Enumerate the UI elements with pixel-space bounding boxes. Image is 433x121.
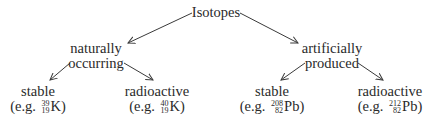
root-label: Isotopes <box>192 5 240 20</box>
arrow-natural-to-stable <box>50 63 70 80</box>
atomic-number: 19 <box>161 107 169 114</box>
node-natural-stable: stable (e.g. 3919K) <box>10 84 66 115</box>
isotope-example: (e.g. 21282Pb) <box>358 99 423 115</box>
isotope-example: (e.g. 4019K) <box>125 99 189 115</box>
element-symbol: K <box>170 98 180 114</box>
nuclide-numbers: 4019 <box>161 100 169 114</box>
node-artificial-radioactive: radioactive (e.g. 21282Pb) <box>358 84 423 115</box>
element-symbol: K <box>51 98 61 114</box>
node-label: radioactive <box>125 84 189 99</box>
nuclide-numbers: 20882 <box>271 100 283 114</box>
nuclide-numbers: 3919 <box>42 100 50 114</box>
atomic-number: 82 <box>389 107 401 114</box>
atomic-number: 19 <box>42 107 50 114</box>
atomic-number: 82 <box>271 107 283 114</box>
isotope-example: (e.g. 3919K) <box>10 99 66 115</box>
node-artificially-produced: artificially produced <box>302 41 362 71</box>
node-label: stable <box>240 84 305 99</box>
nuclide-numbers: 21282 <box>389 100 401 114</box>
node-naturally-occurring: naturally occurring <box>68 41 124 71</box>
isotope-classification-diagram: Isotopes naturally occurring artificiall… <box>0 0 433 121</box>
node-label: radioactive <box>358 84 423 99</box>
arrow-isotopes-to-natural <box>128 13 192 43</box>
node-natural-radioactive: radioactive (e.g. 4019K) <box>125 84 189 115</box>
node-label: stable <box>10 84 66 99</box>
node-label-line2: occurring <box>68 56 124 71</box>
isotope-example: (e.g. 20882Pb) <box>240 99 305 115</box>
arrow-natural-to-radioactive <box>124 63 153 80</box>
element-symbol: Pb <box>402 98 417 114</box>
root-node-isotopes: Isotopes <box>192 5 240 20</box>
node-label-line2: produced <box>302 56 362 71</box>
node-artificial-stable: stable (e.g. 20882Pb) <box>240 84 305 115</box>
element-symbol: Pb <box>284 98 299 114</box>
node-label-line1: artificially <box>302 41 362 56</box>
arrow-isotopes-to-artificial <box>240 13 298 43</box>
node-label-line1: naturally <box>68 41 124 56</box>
